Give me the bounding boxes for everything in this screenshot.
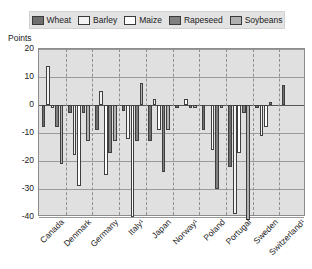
bar-group <box>92 49 119 215</box>
bar <box>55 105 59 127</box>
legend-item: Soybeans <box>230 16 283 25</box>
y-tick-label: -20 <box>0 155 34 165</box>
y-tick-label: -30 <box>0 183 34 193</box>
bar-group <box>199 49 226 215</box>
bar <box>211 105 215 150</box>
bar <box>162 105 166 172</box>
bar <box>82 105 86 113</box>
bar <box>126 105 130 139</box>
y-axis-tick-labels: 20100-10-20-30-40 <box>0 48 34 216</box>
x-tick-label: Denmark <box>62 217 93 248</box>
x-tick-label-text: Japan <box>150 217 173 240</box>
y-tick-label: 20 <box>0 43 34 53</box>
x-tick-label-text: Germany <box>88 217 120 249</box>
bar <box>220 105 224 108</box>
chart-legend: WheatBarleyMaizeRapeseedSoybeans <box>29 11 285 29</box>
legend-item: Wheat <box>32 16 72 25</box>
bar <box>51 105 55 108</box>
legend-label: Wheat <box>47 16 72 25</box>
bar-group <box>146 49 173 215</box>
x-tick-label: Japan <box>150 217 173 240</box>
bar <box>157 105 161 130</box>
bar <box>255 105 259 108</box>
legend-item: Barley <box>78 16 117 25</box>
x-tick-label: Germany <box>88 217 120 249</box>
bar-group <box>66 49 93 215</box>
bar-group <box>279 49 306 215</box>
bar-group <box>226 49 253 215</box>
legend-swatch-icon <box>32 16 44 25</box>
bar <box>282 85 286 105</box>
bar <box>246 105 250 220</box>
bar <box>166 105 170 130</box>
x-tick-label-text: Norway¹ <box>170 217 199 246</box>
chart-container: WheatBarleyMaizeRapeseedSoybeans Points … <box>0 0 312 269</box>
x-tick-label: Norway¹ <box>170 217 199 246</box>
legend-item: Maize <box>124 16 162 25</box>
bar <box>99 91 103 105</box>
legend-label: Maize <box>139 16 162 25</box>
bar <box>233 105 237 214</box>
x-axis-tick-labels: CanadaDenmarkGermanyItaly¹JapanNorway¹Po… <box>38 217 305 269</box>
bar <box>104 105 108 175</box>
bar-group <box>119 49 146 215</box>
y-tick-label: 0 <box>0 99 34 109</box>
bar <box>86 105 90 141</box>
bar <box>242 105 246 113</box>
bar <box>153 99 157 105</box>
y-tick-label: 10 <box>0 71 34 81</box>
bar <box>122 105 126 111</box>
bar-group <box>173 49 200 215</box>
y-tick-label: -10 <box>0 127 34 137</box>
bar <box>73 105 77 155</box>
bar <box>46 66 50 105</box>
legend-swatch-icon <box>124 16 136 25</box>
y-axis-title: Points <box>8 33 32 43</box>
bar <box>175 105 179 108</box>
x-tick-label-text: Portugal <box>224 217 253 246</box>
legend-swatch-icon <box>230 16 242 25</box>
bar <box>202 105 206 130</box>
legend-label: Rapeseed <box>184 16 223 25</box>
bar <box>77 105 81 186</box>
bar <box>184 99 188 105</box>
x-tick-label: Portugal <box>224 217 253 246</box>
bar <box>140 83 144 105</box>
bar <box>189 105 193 108</box>
legend-item: Rapeseed <box>169 16 223 25</box>
bar <box>228 105 232 167</box>
bar <box>215 105 219 189</box>
bar-group <box>39 49 66 215</box>
bar-group <box>253 49 280 215</box>
x-tick-label-text: Italy¹ <box>126 217 146 237</box>
plot-area <box>38 48 305 216</box>
bar <box>131 105 135 217</box>
bar <box>113 105 117 141</box>
bar <box>237 105 241 153</box>
legend-swatch-icon <box>169 16 181 25</box>
bar <box>42 105 46 127</box>
y-tick-label: -40 <box>0 211 34 221</box>
bar <box>60 105 64 164</box>
legend-swatch-icon <box>78 16 90 25</box>
x-tick-label-text: Denmark <box>62 217 93 248</box>
bar <box>264 105 268 127</box>
bar <box>135 105 139 141</box>
legend-label: Soybeans <box>245 16 283 25</box>
legend-label: Barley <box>93 16 117 25</box>
bar <box>108 105 112 153</box>
bar <box>260 105 264 136</box>
bar <box>148 105 152 141</box>
x-tick-label: Italy¹ <box>126 217 146 237</box>
bar <box>269 102 273 105</box>
bar <box>95 105 99 130</box>
bar <box>68 105 72 113</box>
bar <box>193 105 197 108</box>
